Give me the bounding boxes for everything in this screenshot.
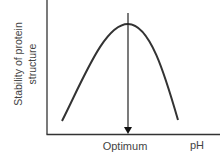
optimum-label: Optimum [103,140,148,152]
y-axis-label-line2: structure [26,43,38,84]
stability-curve [62,24,178,121]
chart: Optimum pH Stability of protein structur… [0,0,222,160]
y-axis-label-line1: Stability of protein [12,22,24,106]
x-axis-label: pH [190,139,204,151]
optimum-arrowhead-icon [124,127,132,134]
